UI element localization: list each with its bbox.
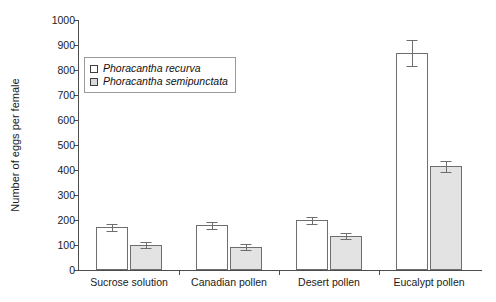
error-bar-cap-top xyxy=(307,217,318,218)
y-tick-label: 400 xyxy=(57,164,75,176)
y-tick-label: 100 xyxy=(57,239,75,251)
error-bar-cap-bottom xyxy=(441,172,452,173)
error-bar-cap-bottom xyxy=(107,231,118,232)
legend-label: Phoracantha recurva xyxy=(103,62,200,75)
y-tick-label: 1000 xyxy=(52,14,75,26)
error-bar xyxy=(312,217,313,224)
y-tick-label: 600 xyxy=(57,114,75,126)
y-axis-title: Number of eggs per female xyxy=(9,78,21,211)
x-axis-label: Desert pollen xyxy=(298,276,360,288)
x-axis-label: Canadian pollen xyxy=(191,276,267,288)
bar-recurva xyxy=(296,220,328,270)
bar-semipunctata xyxy=(330,236,362,270)
bar-recurva xyxy=(396,53,428,271)
bar-recurva xyxy=(196,225,228,270)
legend-item: Phoracantha semipunctata xyxy=(90,75,228,88)
error-bar-cap-top xyxy=(141,242,152,243)
x-axis-line xyxy=(78,270,482,271)
error-bar xyxy=(112,224,113,231)
legend-item: Phoracantha recurva xyxy=(90,62,228,75)
error-bar xyxy=(446,161,447,172)
error-bar-cap-top xyxy=(107,224,118,225)
y-tick-label: 700 xyxy=(57,89,75,101)
y-tick-label: 200 xyxy=(57,214,75,226)
error-bar-cap-bottom xyxy=(207,229,218,230)
error-bar xyxy=(412,40,413,66)
y-tick-label: 900 xyxy=(57,39,75,51)
error-bar-cap-bottom xyxy=(307,224,318,225)
bar-semipunctata xyxy=(430,166,462,270)
legend-label: Phoracantha semipunctata xyxy=(103,75,228,88)
legend: Phoracantha recurva Phoracantha semipunc… xyxy=(84,57,236,93)
x-axis-separator xyxy=(379,270,380,275)
y-tick-label: 0 xyxy=(69,264,75,276)
error-bar-cap-bottom xyxy=(141,248,152,249)
legend-swatch-semipunctata-icon xyxy=(90,78,98,86)
error-bar-cap-bottom xyxy=(407,66,418,67)
error-bar-cap-top xyxy=(241,244,252,245)
error-bar-cap-top xyxy=(441,161,452,162)
error-bar-cap-top xyxy=(341,233,352,234)
y-tick-label: 500 xyxy=(57,139,75,151)
x-axis-separator xyxy=(179,270,180,275)
x-axis-label: Eucalypt pollen xyxy=(393,276,464,288)
error-bar-cap-bottom xyxy=(241,250,252,251)
x-axis-separator xyxy=(279,270,280,275)
legend-swatch-recurva-icon xyxy=(90,65,98,73)
bar-chart: Number of eggs per female 10009008007006… xyxy=(0,0,496,302)
error-bar xyxy=(212,222,213,229)
error-bar-cap-top xyxy=(207,222,218,223)
y-tick-label: 800 xyxy=(57,64,75,76)
y-tick-label: 300 xyxy=(57,189,75,201)
error-bar-cap-top xyxy=(407,40,418,41)
x-axis-label: Sucrose solution xyxy=(90,276,168,288)
bar-recurva xyxy=(96,227,128,270)
error-bar-cap-bottom xyxy=(341,239,352,240)
